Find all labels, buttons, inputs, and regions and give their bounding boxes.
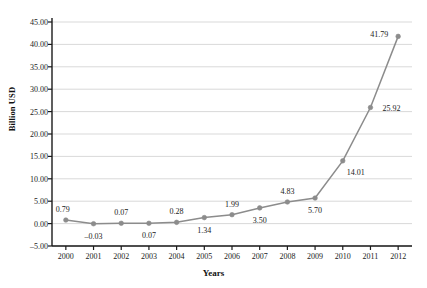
x-axis-title: Years (0, 268, 427, 278)
data-point-label: 0.79 (56, 205, 70, 214)
y-tick-label: 40.00 (4, 40, 48, 49)
y-tick-label: –5.00 (4, 242, 48, 251)
y-tick-label: 5.00 (4, 197, 48, 206)
y-tick-label: 10.00 (4, 174, 48, 183)
y-tick-label: 20.00 (4, 130, 48, 139)
data-point-label: 1.34 (197, 225, 211, 234)
data-point-label: 3.50 (253, 215, 267, 224)
line-chart: Billion USD –5.000.005.0010.0015.0020.00… (0, 0, 427, 288)
y-tick-label: 35.00 (4, 62, 48, 71)
data-point-label: –0.03 (85, 231, 103, 240)
data-point-label: 4.83 (280, 186, 294, 195)
data-point-label: 14.01 (347, 167, 365, 176)
data-point-label: 5.70 (308, 206, 322, 215)
y-tick-label: 0.00 (4, 219, 48, 228)
plot-area (0, 0, 427, 288)
data-point-label: 41.79 (370, 30, 388, 39)
x-tick-label: 2012 (378, 252, 418, 261)
data-point-label: 0.07 (114, 208, 128, 217)
data-point-label: 25.92 (382, 104, 400, 113)
y-tick-label: 25.00 (4, 107, 48, 116)
series-line (66, 36, 398, 223)
data-point-label: 0.07 (142, 231, 156, 240)
data-point-label: 0.28 (170, 207, 184, 216)
series-markers (64, 34, 401, 226)
y-tick-label: 15.00 (4, 152, 48, 161)
data-point-label: 1.99 (225, 199, 239, 208)
y-tick-label: 30.00 (4, 85, 48, 94)
y-tick-label: 45.00 (4, 18, 48, 27)
